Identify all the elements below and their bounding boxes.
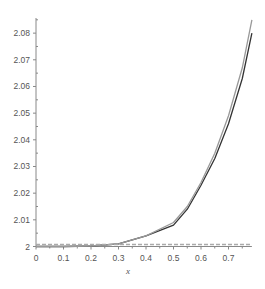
- x-tick-label: 0.2: [85, 253, 97, 263]
- line-chart: 22.012.022.032.042.052.062.072.08 00.10.…: [0, 0, 265, 289]
- plot-area: [36, 20, 252, 247]
- x-axis-label: x: [125, 266, 130, 276]
- x-tick-label: 0.4: [140, 253, 152, 263]
- series-curve-light: [36, 20, 252, 247]
- y-tick-label: 2.01: [13, 215, 30, 225]
- x-tick-label: 0.5: [168, 253, 180, 263]
- x-tick-label: 0.3: [113, 253, 125, 263]
- x-tick-label: 0.7: [223, 253, 235, 263]
- y-tick-label: 2.05: [13, 108, 30, 118]
- x-tick-label: 0.1: [58, 253, 70, 263]
- y-tick-label: 2.08: [13, 28, 30, 38]
- y-tick-label: 2: [25, 242, 30, 252]
- y-tick-label: 2.04: [13, 135, 30, 145]
- y-tick-label: 2.02: [13, 188, 30, 198]
- y-tick-label: 2.07: [13, 55, 30, 65]
- y-tick-label: 2.06: [13, 81, 30, 91]
- x-tick-label: 0.6: [195, 253, 207, 263]
- y-tick-label: 2.03: [13, 161, 30, 171]
- x-tick-label: 0: [34, 253, 39, 263]
- x-axis: 00.10.20.30.40.50.60.7: [34, 247, 252, 263]
- y-axis: 22.012.022.032.042.052.062.072.08: [13, 18, 38, 252]
